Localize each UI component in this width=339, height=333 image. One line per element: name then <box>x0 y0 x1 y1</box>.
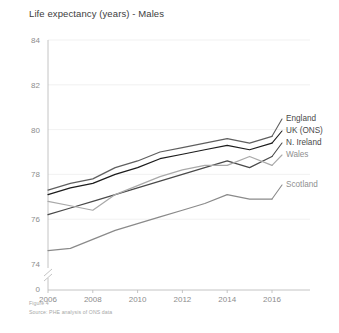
legend-leader-lines <box>272 119 282 199</box>
figure-container: Life expectancy (years) - Males 07476788… <box>0 0 339 333</box>
svg-text:84: 84 <box>31 36 40 45</box>
svg-text:0: 0 <box>36 285 41 294</box>
series-line-scotland <box>48 195 272 251</box>
svg-text:78: 78 <box>31 170 40 179</box>
series-line-uk-ons <box>48 143 272 195</box>
legend-leader-n-ireland <box>272 143 282 156</box>
gridlines <box>48 40 310 219</box>
legend-item-uk-ons: UK (ONS) <box>286 127 323 135</box>
svg-text:80: 80 <box>31 126 40 135</box>
legend-item-n-ireland: N. Ireland <box>286 139 322 147</box>
svg-text:2010: 2010 <box>129 295 147 304</box>
legend-item-wales: Wales <box>286 151 308 159</box>
legend-leader-scotland <box>272 185 282 199</box>
legend-item-england: England <box>286 115 316 123</box>
x-axis-ticks: 200620082010201220142016 <box>39 290 281 304</box>
line-chart: 0747678808284 200620082010201220142016 <box>0 0 339 333</box>
legend-leader-england <box>272 119 282 136</box>
legend-item-scotland: Scotland <box>286 181 318 189</box>
svg-text:2016: 2016 <box>263 295 281 304</box>
figure-source: Source: PHE analysis of ONS data <box>29 309 112 315</box>
svg-text:2014: 2014 <box>218 295 236 304</box>
svg-text:76: 76 <box>31 215 40 224</box>
svg-text:2012: 2012 <box>174 295 192 304</box>
legend-leader-wales <box>272 155 282 165</box>
figure-caption: Figure 4 <box>29 300 49 306</box>
svg-text:2008: 2008 <box>84 295 102 304</box>
svg-text:74: 74 <box>31 260 40 269</box>
svg-text:82: 82 <box>31 81 40 90</box>
data-series-group <box>48 136 272 250</box>
y-axis-ticks: 0747678808284 <box>31 36 40 294</box>
series-line-england <box>48 136 272 190</box>
